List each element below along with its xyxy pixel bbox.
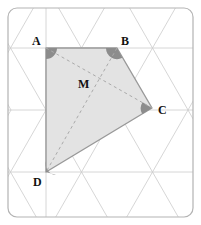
- vertex-label-a: A: [32, 35, 41, 47]
- vertex-label-b: B: [121, 35, 129, 47]
- vertex-label-c: C: [158, 104, 167, 116]
- vertex-label-d: D: [33, 176, 42, 188]
- geometry-figure: A B C D M: [0, 0, 201, 225]
- figure-canvas: [0, 0, 201, 225]
- point-label-m: M: [78, 78, 89, 90]
